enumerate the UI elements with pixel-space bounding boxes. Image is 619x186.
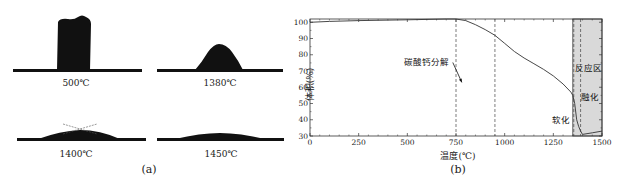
y-tick-label: 90 (298, 34, 308, 43)
annotation-1: 反应区 (575, 63, 602, 73)
y-tick-label: 40 (298, 115, 308, 124)
annotation-3: 软化 (552, 115, 570, 125)
label-1450c: 1450℃ (205, 149, 238, 159)
x-axis-label: 温度(℃) (440, 149, 475, 162)
caption-b: (b) (450, 163, 466, 176)
y-tick-label: 30 (298, 132, 308, 141)
volume-temperature-chart: 025050075010001250150030405060708090100碳… (290, 0, 619, 160)
label-1400c: 1400℃ (60, 149, 93, 159)
drop-shapes-figure (0, 0, 300, 186)
drop-1450c (157, 133, 284, 141)
drop-1400c (17, 124, 146, 141)
x-tick-label: 1250 (544, 138, 563, 147)
x-tick-label: 250 (352, 138, 367, 147)
y-tick-label: 100 (294, 18, 309, 27)
x-tick-label: 1500 (592, 138, 611, 147)
panel-a: 500℃ 1380℃ 1400℃ 1450℃ (a) (0, 0, 300, 186)
label-1380c: 1380℃ (204, 78, 237, 88)
label-500c: 500℃ (62, 78, 89, 88)
reaction-zone-shading (573, 19, 602, 136)
annotation-0: 碳酸钙分解 (404, 57, 449, 67)
y-axis-label: 体积(%) (303, 68, 316, 102)
drop-1380c (157, 44, 283, 72)
x-tick-label: 500 (400, 138, 415, 147)
drop-500c (13, 16, 142, 73)
y-tick-label: 80 (298, 50, 308, 59)
panel-b: 025050075010001250150030405060708090100碳… (290, 0, 619, 186)
caption-a: (a) (141, 163, 156, 176)
x-tick-label: 750 (449, 138, 464, 147)
x-tick-label: 0 (308, 138, 313, 147)
x-tick-label: 1000 (495, 138, 514, 147)
annotation-2: 融化 (581, 92, 599, 102)
